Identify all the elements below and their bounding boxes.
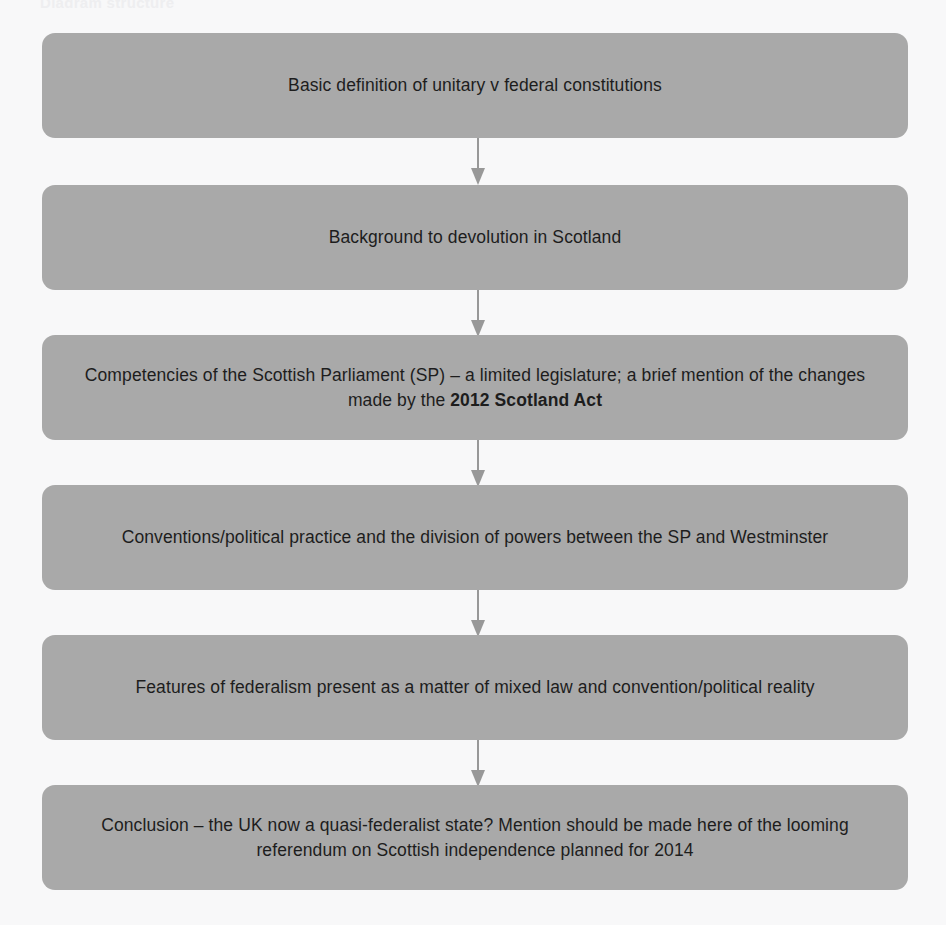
connector-line <box>477 290 479 323</box>
connector-line <box>477 740 479 773</box>
flowchart-node-2: Background to devolution in Scotland <box>42 185 908 290</box>
flowchart-node-3-label-emphasis: 2012 Scotland Act <box>450 390 602 410</box>
flowchart-connector-3 <box>470 440 486 487</box>
down-arrow-icon <box>471 168 485 185</box>
flowchart-node-5-label: Features of federalism present as a matt… <box>68 675 882 700</box>
flowchart-connector-5 <box>470 740 486 787</box>
flowchart-connector-4 <box>470 590 486 637</box>
flowchart-node-6: Conclusion – the UK now a quasi-federali… <box>42 785 908 890</box>
flowchart-node-4-label: Conventions/political practice and the d… <box>68 525 882 550</box>
flowchart-connector-2 <box>470 290 486 337</box>
flowchart-connector-1 <box>470 138 486 185</box>
flowchart-node-6-label: Conclusion – the UK now a quasi-federali… <box>68 813 882 863</box>
flowchart-node-1-label: Basic definition of unitary v federal co… <box>68 73 882 98</box>
connector-line <box>477 590 479 623</box>
flowchart-node-2-label: Background to devolution in Scotland <box>68 225 882 250</box>
flowchart-node-3: Competencies of the Scottish Parliament … <box>42 335 908 440</box>
flowchart-node-4: Conventions/political practice and the d… <box>42 485 908 590</box>
connector-line <box>477 138 479 171</box>
flowchart-node-1: Basic definition of unitary v federal co… <box>42 33 908 138</box>
connector-line <box>477 440 479 473</box>
flowchart-diagram: Basic definition of unitary v federal co… <box>0 0 946 925</box>
flowchart-node-5: Features of federalism present as a matt… <box>42 635 908 740</box>
flowchart-node-3-label: Competencies of the Scottish Parliament … <box>68 363 882 413</box>
